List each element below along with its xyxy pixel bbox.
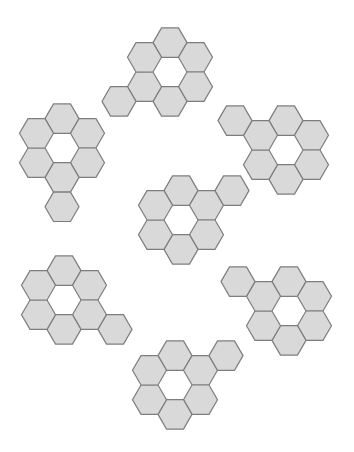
hexagon-figure-1[interactable]: Top figure (102, 28, 213, 116)
hexagon-figures-svg: Top figureUpper-left figureUpper-right f… (0, 0, 354, 452)
hexagon-figure-4[interactable]: Center figure (139, 176, 250, 264)
page-canvas: Top figureUpper-left figureUpper-right f… (0, 0, 354, 452)
hexagon-figure-5[interactable]: Lower-left figure (22, 256, 133, 344)
hexagon-figure-2[interactable]: Upper-left figure (20, 104, 105, 222)
hexagon-figure-7[interactable]: Bottom figure (133, 341, 244, 429)
hexagon-extra-cell (45, 192, 79, 221)
hexagon-figure-6[interactable]: Lower-right figure (221, 267, 332, 355)
